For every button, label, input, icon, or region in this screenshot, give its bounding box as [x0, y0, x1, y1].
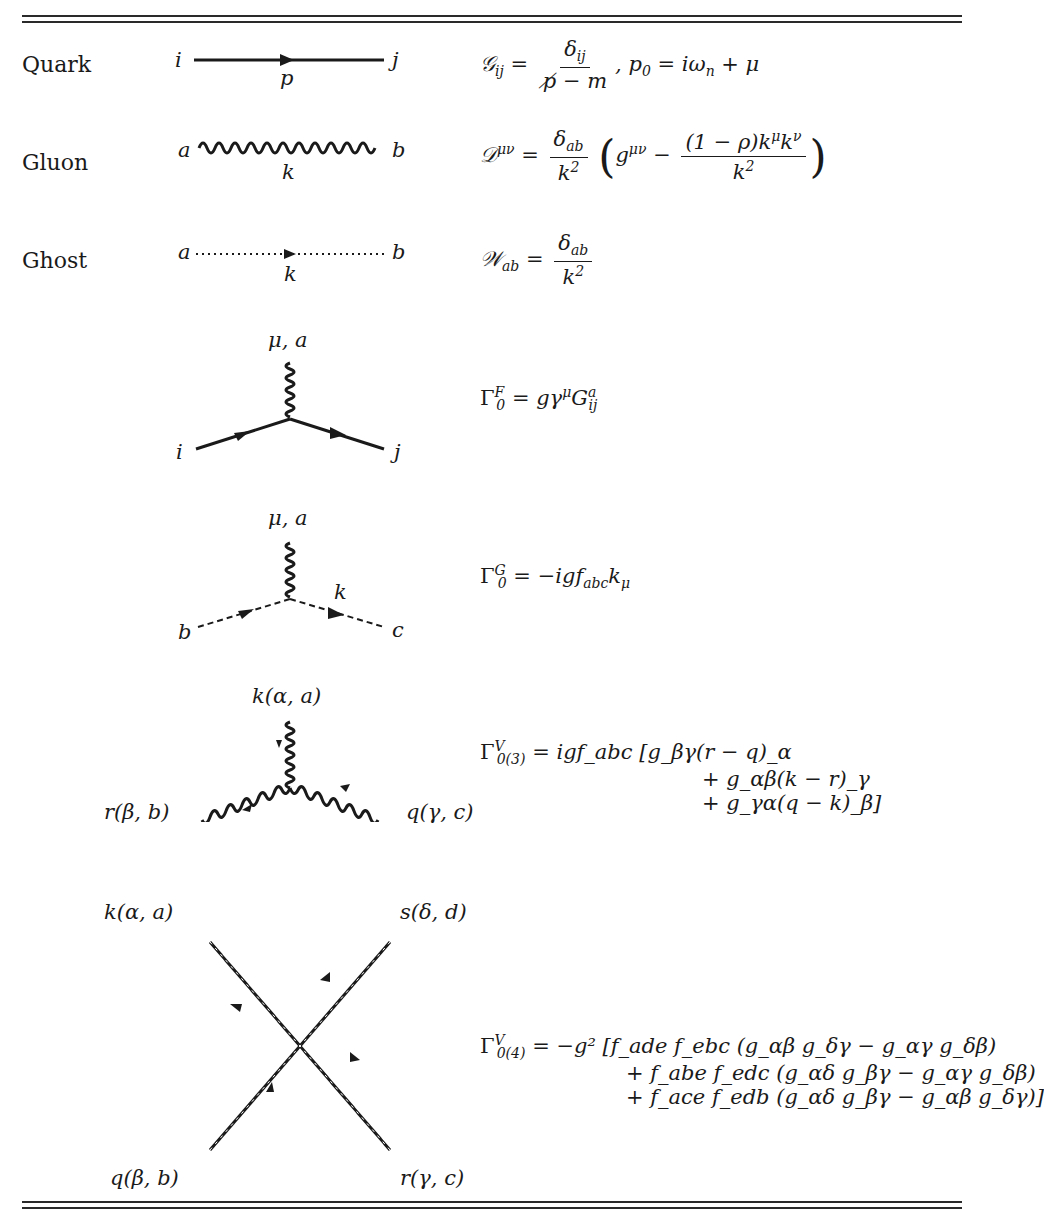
ghost-endpoint-a: a	[178, 240, 191, 264]
top-rule-1	[22, 15, 962, 17]
three-gluon-left-label: r(β, b)	[104, 800, 169, 824]
qg-vertex-left-label: i	[176, 440, 183, 464]
quark-momentum: p	[280, 66, 293, 90]
four-gluon-vertex-diagram	[200, 932, 400, 1162]
gg-vertex-formula: ΓG0 = −igfabckμ	[480, 562, 630, 591]
row-label-gluon: Gluon	[22, 150, 88, 175]
ghost-propagator-dotted	[192, 244, 392, 264]
gluon-propagator-curly	[195, 136, 385, 160]
ghost-gluon-vertex-diagram	[190, 535, 390, 635]
ghost-formula: 𝒲ab = δabk2	[480, 232, 596, 289]
top-rule-2	[22, 21, 962, 23]
row-label-quark: Quark	[22, 52, 91, 77]
three-gluon-right-label: q(γ, c)	[406, 800, 474, 824]
three-gluon-formula: ΓV0(3) = igf_abc [g_βγ(r − q)_α + g_αβ(k…	[480, 738, 881, 815]
quark-endpoint-i: i	[175, 48, 182, 72]
four-gluon-formula: ΓV0(4) = −g² [f_ade f_ebc (g_αβ g_δγ − g…	[480, 1032, 1044, 1109]
four-gluon-top-right-label: s(δ, d)	[400, 900, 467, 924]
gluon-endpoint-a: a	[178, 138, 191, 162]
ghost-endpoint-b: b	[392, 240, 405, 264]
qg-vertex-formula: ΓF0 = gγμGaij	[480, 384, 597, 413]
four-gluon-bottom-right-label: r(γ, c)	[400, 1166, 464, 1190]
ghost-momentum: k	[284, 262, 297, 286]
gg-vertex-right-label: c	[392, 618, 404, 642]
four-gluon-top-left-label: k(α, a)	[104, 900, 173, 924]
gg-vertex-top-label: μ, a	[268, 506, 308, 530]
gluon-formula: 𝒟μν = δabk2 (gμν − (1 − ρ)kμkνk2)	[480, 128, 827, 185]
four-gluon-bottom-left-label: q(β, b)	[110, 1166, 179, 1190]
row-label-ghost: Ghost	[22, 248, 87, 273]
bottom-rule-1	[22, 1201, 962, 1203]
qg-vertex-top-label: μ, a	[268, 328, 308, 352]
quark-formula: 𝒢ij = δijp̸ − m, p0 = iωn + μ	[480, 38, 759, 93]
bottom-rule-2	[22, 1207, 962, 1209]
gluon-endpoint-b: b	[392, 138, 405, 162]
quark-endpoint-j: j	[392, 48, 399, 72]
qg-vertex-right-label: j	[394, 440, 401, 464]
gluon-momentum: k	[282, 160, 295, 184]
quark-gluon-vertex-diagram	[190, 355, 390, 455]
three-gluon-vertex-diagram	[190, 712, 390, 822]
three-gluon-top-label: k(α, a)	[252, 684, 321, 708]
